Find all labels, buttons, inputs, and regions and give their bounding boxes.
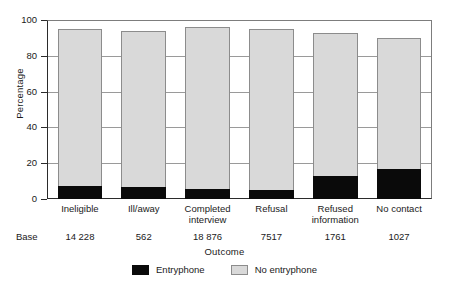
x-axis-title: Outcome [0, 246, 449, 257]
y-axis-tick-label: 100 [0, 15, 37, 25]
base-value: 1027 [367, 231, 431, 242]
bar-segment-entryphone [249, 190, 294, 199]
y-axis-tick-label: 40 [0, 122, 37, 132]
bar-segment-entryphone [377, 169, 422, 199]
bar-segment-no-entryphone [249, 29, 294, 190]
chart-legend: EntryphoneNo entryphone [0, 264, 449, 275]
y-axis-tick-label: 0 [0, 194, 37, 204]
legend-item-label: Entryphone [156, 264, 205, 275]
y-axis-tick-label: 60 [0, 87, 37, 97]
base-row-values: 14 22856218 876751717611027 [48, 231, 431, 244]
stacked-bar-chart: Percentage 020406080100 IneligibleIll/aw… [0, 0, 449, 290]
base-value: 14 228 [48, 231, 112, 242]
base-value: 562 [112, 231, 176, 242]
y-axis-tick-label: 20 [0, 158, 37, 168]
base-value: 1761 [303, 231, 367, 242]
bar-segment-no-entryphone [377, 38, 422, 169]
bar-stack [249, 29, 294, 199]
x-axis-category-labels: IneligibleIll/awayCompletedinterviewRefu… [48, 203, 431, 229]
bar-stack [185, 27, 230, 199]
x-axis-category-label: Completedinterview [176, 203, 240, 225]
y-axis-tick-label: 80 [0, 51, 37, 61]
bar-stack [58, 29, 103, 199]
bar-group [313, 20, 358, 199]
bar-segment-entryphone [185, 189, 230, 199]
x-axis-category-label: Refusal [240, 203, 304, 214]
grey-swatch-icon [231, 265, 248, 275]
bar-group [121, 20, 166, 199]
bars-layer [48, 20, 431, 199]
bar-segment-no-entryphone [313, 33, 358, 176]
bar-segment-entryphone [121, 187, 166, 199]
bar-segment-entryphone [313, 176, 358, 199]
base-value: 18 876 [176, 231, 240, 242]
base-row-title: Base [16, 231, 38, 242]
bar-segment-entryphone [58, 186, 103, 199]
bar-group [249, 20, 294, 199]
bar-stack [121, 31, 166, 199]
bar-group [377, 20, 422, 199]
x-axis-category-label: Ineligible [48, 203, 112, 214]
black-swatch-icon [132, 265, 149, 275]
y-axis-tick [41, 199, 47, 200]
base-value: 7517 [240, 231, 304, 242]
bar-segment-no-entryphone [185, 27, 230, 189]
bar-group [185, 20, 230, 199]
legend-item-label: No entryphone [255, 264, 317, 275]
bar-segment-no-entryphone [58, 29, 103, 187]
bar-stack [377, 38, 422, 199]
x-axis-category-label: No contact [367, 203, 431, 214]
bar-group [58, 20, 103, 199]
bar-segment-no-entryphone [121, 31, 166, 188]
legend-item[interactable]: Entryphone [132, 264, 205, 275]
x-axis-category-label: Ill/away [112, 203, 176, 214]
x-axis-category-label: Refusedinformation [303, 203, 367, 225]
legend-item[interactable]: No entryphone [231, 264, 317, 275]
bar-stack [313, 33, 358, 199]
